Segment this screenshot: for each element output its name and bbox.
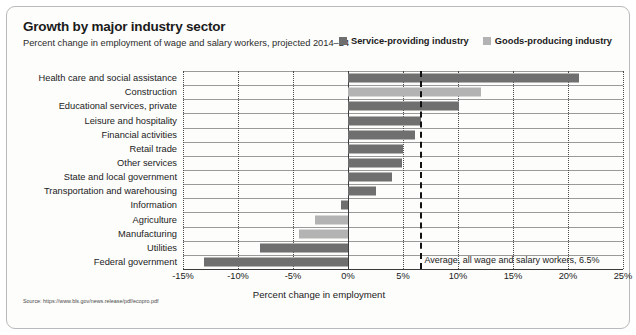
bar	[348, 173, 392, 182]
x-tick-label: -10%	[227, 271, 249, 281]
category-label: Transportation and warehousing	[44, 186, 177, 196]
gridline	[293, 71, 294, 269]
chart-title: Growth by major industry sector	[23, 19, 225, 34]
category-label: Construction	[125, 87, 177, 97]
category-label: Educational services, private	[59, 101, 177, 111]
x-tick-label: 5%	[396, 271, 409, 281]
category-label: Retail trade	[129, 144, 177, 154]
bar	[348, 187, 376, 196]
category-label: Financial activities	[102, 130, 177, 140]
legend-swatch-goods	[483, 37, 491, 45]
bar	[260, 243, 348, 252]
gridline	[623, 71, 624, 269]
average-annotation: Average, all wage and salary workers, 6.…	[425, 255, 600, 265]
x-tick-label: 10%	[449, 271, 468, 281]
legend-swatch-service	[339, 37, 347, 45]
x-tick-label: 25%	[614, 271, 633, 281]
category-label: Utilities	[147, 243, 177, 253]
gridline	[183, 71, 184, 269]
gridline	[238, 71, 239, 269]
bar	[204, 257, 348, 266]
legend-item-service: Service-providing industry	[339, 36, 469, 46]
category-label: Information	[130, 200, 177, 210]
category-axis: Health care and social assistanceConstru…	[21, 71, 181, 269]
bar	[348, 88, 481, 97]
category-label: Leisure and hospitality	[84, 116, 177, 126]
category-label: State and local government	[64, 172, 177, 182]
legend-label-goods: Goods-producing industry	[495, 36, 612, 46]
zero-axis-line	[348, 71, 349, 269]
x-tick-label: -5%	[285, 271, 302, 281]
category-label: Federal government	[94, 257, 177, 267]
category-label: Other services	[117, 158, 177, 168]
bar	[299, 229, 349, 238]
chart-legend: Service-providing industry Goods-produci…	[339, 36, 612, 46]
legend-label-service: Service-providing industry	[351, 36, 469, 46]
category-label: Agriculture	[133, 215, 177, 225]
bar	[348, 102, 459, 111]
gridline	[568, 71, 569, 269]
gridline	[403, 71, 404, 269]
average-reference-line	[420, 71, 422, 269]
gridline	[458, 71, 459, 269]
chart-subtitle: Percent change in employment of wage and…	[23, 38, 349, 48]
bar	[348, 116, 421, 125]
x-tick-label: 15%	[504, 271, 523, 281]
legend-item-goods: Goods-producing industry	[483, 36, 612, 46]
bar	[315, 215, 348, 224]
bar	[348, 158, 402, 167]
bar	[341, 201, 348, 210]
category-label: Manufacturing	[118, 229, 177, 239]
bar	[348, 130, 415, 139]
x-axis-line	[183, 269, 623, 270]
plot-area	[183, 71, 623, 269]
x-tick-label: -15%	[172, 271, 194, 281]
x-tick-label: 0%	[341, 271, 354, 281]
gridline	[513, 71, 514, 269]
bar	[348, 74, 579, 83]
category-label: Health care and social assistance	[39, 73, 178, 83]
chart-card: Growth by major industry sector Percent …	[6, 6, 630, 329]
source-note: Source: https://www.bls.gov/news.release…	[23, 298, 158, 304]
x-tick-label: 20%	[559, 271, 578, 281]
bar	[348, 144, 403, 153]
